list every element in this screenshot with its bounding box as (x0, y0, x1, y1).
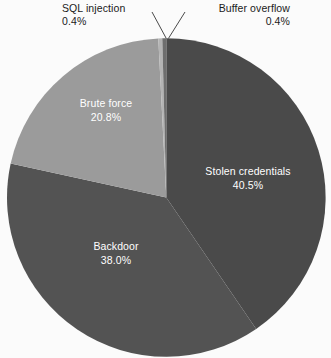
slice-label-backdoor: Backdoor 38.0% (72, 240, 160, 267)
slice-label-stolen-credentials: Stolen credentials 40.5% (193, 165, 303, 192)
slice-label-percent-stolen-credentials: 40.5% (193, 179, 303, 193)
slice-label-name-backdoor: Backdoor (72, 240, 160, 254)
slice-label-name-buffer-overflow: Buffer overflow (196, 2, 290, 15)
leader-line-buffer-overflow (168, 12, 185, 39)
slice-label-percent-brute-force: 20.8% (63, 111, 149, 125)
slice-label-name-stolen-credentials: Stolen credentials (193, 165, 303, 179)
slice-label-name-sql-injection: SQL injection (62, 2, 125, 15)
slice-label-percent-buffer-overflow: 0.4% (196, 15, 290, 28)
slice-label-percent-sql-injection: 0.4% (62, 15, 125, 28)
slice-label-brute-force: Brute force 20.8% (63, 97, 149, 124)
leader-line-group (152, 12, 185, 39)
slice-label-sql-injection: SQL injection 0.4% (62, 2, 125, 28)
pie-chart-figure: SQL injection 0.4% Buffer overflow 0.4% … (0, 0, 331, 358)
slice-label-name-brute-force: Brute force (63, 97, 149, 111)
slice-label-buffer-overflow: Buffer overflow 0.4% (196, 2, 290, 28)
leader-line-sql-injection (152, 12, 166, 39)
slice-label-percent-backdoor: 38.0% (72, 254, 160, 268)
pie-slice-group (7, 38, 326, 357)
